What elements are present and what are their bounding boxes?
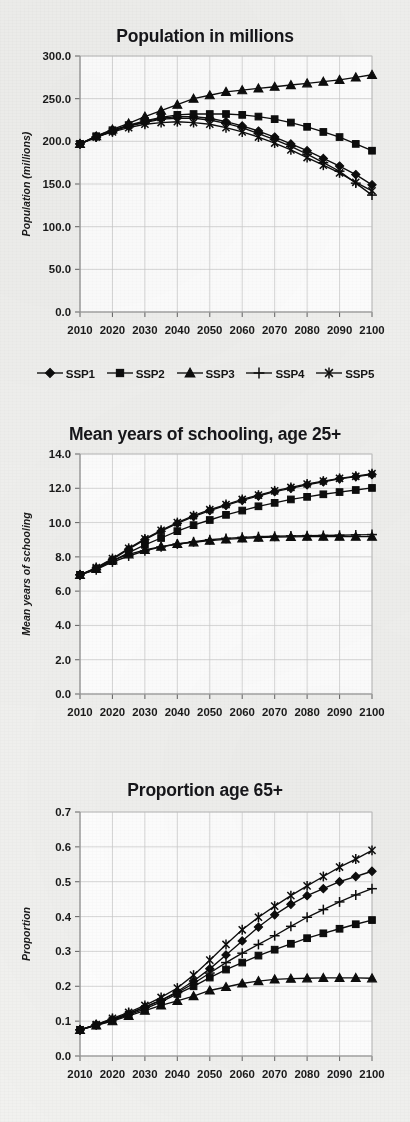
chart-panel-schooling: Mean years of schooling, age 25+ 0.02.04… [0, 400, 410, 752]
proportion65-chart-svg: 0.00.10.20.30.40.50.60.72010202020302040… [0, 798, 410, 1098]
x-tick-label: 2010 [67, 324, 92, 336]
x-tick-label: 2060 [230, 324, 255, 336]
square-marker [190, 522, 197, 529]
square-icon [106, 366, 134, 380]
y-tick-label: 0.3 [55, 945, 71, 957]
triangle-icon [176, 366, 204, 380]
x-tick-label: 2080 [294, 1068, 319, 1080]
legend-label: SSP5 [345, 367, 374, 380]
square-marker [352, 141, 359, 148]
square-marker [255, 113, 262, 120]
x-tick-label: 2100 [359, 706, 384, 718]
square-marker [304, 124, 311, 131]
x-tick-label: 2060 [230, 1068, 255, 1080]
y-tick-label: 8.0 [55, 551, 71, 563]
y-tick-label: 150.0 [42, 178, 71, 190]
x-tick-label: 2080 [294, 706, 319, 718]
y-tick-label: 0.0 [55, 306, 71, 318]
legend-label: SSP3 [206, 367, 235, 380]
y-tick-label: 200.0 [42, 135, 71, 147]
x-tick-label: 2010 [67, 1068, 92, 1080]
square-marker [320, 491, 327, 498]
x-tick-label: 2060 [230, 706, 255, 718]
square-marker [271, 116, 278, 123]
y-tick-label: 100.0 [42, 221, 71, 233]
x-tick-label: 2040 [165, 706, 190, 718]
y-tick-label: 0.6 [55, 841, 71, 853]
y-axis-title: Proportion [20, 906, 32, 961]
x-tick-label: 2080 [294, 324, 319, 336]
square-marker [271, 500, 278, 507]
plot-background [80, 454, 372, 694]
x-tick-label: 2090 [327, 1068, 352, 1080]
x-tick-label: 2100 [359, 1068, 384, 1080]
legend-entry-ssp4: SSP4 [245, 366, 304, 380]
y-tick-label: 250.0 [42, 93, 71, 105]
y-tick-label: 300.0 [42, 50, 71, 62]
x-tick-label: 2030 [132, 1068, 157, 1080]
y-tick-label: 50.0 [49, 263, 71, 275]
x-tick-label: 2070 [262, 706, 287, 718]
schooling-chart-svg: 0.02.04.06.08.010.012.014.02010202020302… [0, 442, 410, 738]
y-tick-label: 0.7 [55, 806, 71, 818]
square-marker [304, 935, 311, 942]
square-marker [336, 134, 343, 141]
square-marker [369, 917, 376, 924]
square-marker [369, 147, 376, 154]
y-tick-label: 10.0 [49, 517, 71, 529]
square-marker [255, 503, 262, 510]
population-chart-svg: 0.050.0100.0150.0200.0250.0300.020102020… [0, 44, 410, 354]
y-tick-label: 0.1 [55, 1015, 71, 1027]
square-marker [304, 494, 311, 501]
chart-panel-proportion65: Proportion age 65+ 0.00.10.20.30.40.50.6… [0, 752, 410, 1122]
square-marker [239, 112, 246, 119]
square-marker [336, 925, 343, 932]
y-tick-label: 12.0 [49, 482, 71, 494]
square-marker [369, 485, 376, 492]
x-tick-label: 2020 [100, 324, 125, 336]
y-tick-label: 2.0 [55, 654, 71, 666]
square-marker [352, 487, 359, 494]
x-tick-label: 2010 [67, 706, 92, 718]
x-tick-label: 2050 [197, 324, 222, 336]
square-marker [239, 959, 246, 966]
x-tick-label: 2090 [327, 706, 352, 718]
square-marker [223, 512, 230, 519]
legend-label: SSP1 [66, 367, 95, 380]
square-marker [336, 489, 343, 496]
y-axis-title: Population (millions) [20, 131, 32, 236]
x-tick-label: 2040 [165, 324, 190, 336]
plus-icon [245, 366, 273, 380]
legend-entry-ssp2: SSP2 [106, 366, 165, 380]
square-marker [206, 517, 213, 524]
y-tick-label: 4.0 [55, 619, 71, 631]
legend-label: SSP2 [136, 367, 165, 380]
square-marker [223, 111, 230, 118]
x-tick-label: 2070 [262, 324, 287, 336]
legend-entry-ssp3: SSP3 [176, 366, 235, 380]
x-tick-label: 2050 [197, 1068, 222, 1080]
y-tick-label: 0.0 [55, 1050, 71, 1062]
legend: SSP1SSP2SSP3SSP4SSP5 [0, 366, 410, 380]
y-tick-label: 6.0 [55, 585, 71, 597]
y-tick-label: 0.2 [55, 980, 71, 992]
y-tick-label: 0.4 [55, 911, 71, 923]
y-tick-label: 0.0 [55, 688, 71, 700]
asterisk-icon [315, 366, 343, 380]
x-tick-label: 2050 [197, 706, 222, 718]
x-tick-label: 2090 [327, 324, 352, 336]
chart-panel-population: Population in millions 0.050.0100.0150.0… [0, 0, 410, 400]
square-marker [174, 528, 181, 535]
x-tick-label: 2020 [100, 1068, 125, 1080]
x-tick-label: 2040 [165, 1068, 190, 1080]
square-marker [239, 507, 246, 514]
y-tick-label: 14.0 [49, 448, 71, 460]
x-tick-label: 2020 [100, 706, 125, 718]
square-marker [271, 946, 278, 953]
square-marker [288, 496, 295, 503]
legend-entry-ssp5: SSP5 [315, 366, 374, 380]
legend-label: SSP4 [275, 367, 304, 380]
x-tick-label: 2030 [132, 324, 157, 336]
square-marker [158, 535, 165, 542]
square-marker [255, 952, 262, 959]
